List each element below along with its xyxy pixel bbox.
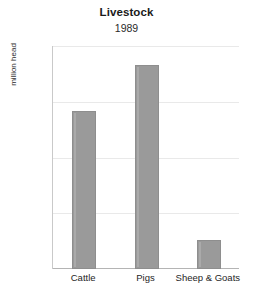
plot-inner xyxy=(53,46,239,269)
bar-cattle xyxy=(72,111,96,269)
x-tick-label: Cattle xyxy=(71,272,96,283)
chart-subtitle: 1989 xyxy=(0,22,253,34)
plot-area xyxy=(52,46,239,269)
bar-sheep-goats xyxy=(197,240,221,269)
x-tick-label: Sheep & Goats xyxy=(176,272,240,283)
y-axis-title: million head xyxy=(9,25,18,105)
bar-pigs xyxy=(135,65,159,269)
livestock-bar-chart: Livestock 1989 million head 00.30.60.91.… xyxy=(0,0,253,305)
gridline xyxy=(53,46,239,47)
chart-title: Livestock xyxy=(0,6,253,18)
x-tick-label: Pigs xyxy=(136,272,154,283)
